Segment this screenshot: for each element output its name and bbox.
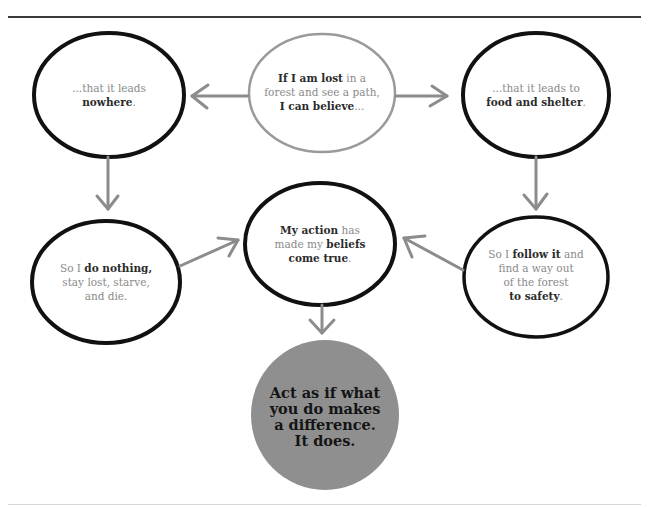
conclusion-text-1: has bbox=[338, 224, 360, 236]
final-text-4: It does. bbox=[255, 433, 395, 449]
right-outcome-text-2: find a way out bbox=[471, 261, 601, 275]
arrow-conclusion-to-final bbox=[310, 305, 334, 333]
arrow-start-to-left bbox=[192, 85, 248, 108]
start-node: If I am lost in a forest and see a path,… bbox=[252, 71, 392, 113]
right-belief-text-2: . bbox=[582, 96, 585, 108]
arrow-left-belief-down bbox=[97, 157, 118, 209]
right-belief-node: ...that it leads to food and shelter. bbox=[466, 81, 606, 109]
final-text-2: you do makes bbox=[255, 401, 395, 417]
left-outcome-node: So I do nothing, stay lost, starve, and … bbox=[41, 261, 171, 303]
left-outcome-text-3: and die. bbox=[41, 289, 171, 303]
left-belief-emphasis: nowhere bbox=[82, 96, 132, 108]
conclusion-node: My action has made my beliefs come true. bbox=[255, 223, 385, 265]
left-belief-node: ...that it leads nowhere. bbox=[49, 81, 169, 109]
right-outcome-emphasis-4: to safety bbox=[509, 290, 559, 302]
conclusion-emphasis-3: come true bbox=[289, 252, 349, 264]
start-emphasis-1: If I am lost bbox=[278, 72, 343, 84]
left-belief-text-2: . bbox=[132, 96, 135, 108]
right-outcome-text-1: So I bbox=[488, 248, 512, 260]
final-text-1: Act as if what bbox=[255, 385, 395, 401]
arrow-start-to-right bbox=[396, 86, 447, 106]
start-emphasis-3: I can believe bbox=[280, 100, 355, 112]
right-outcome-text-4: . bbox=[560, 290, 563, 302]
arrow-right-belief-down bbox=[524, 157, 547, 209]
conclusion-emphasis-1: My action bbox=[280, 224, 338, 236]
right-belief-emphasis: food and shelter bbox=[486, 96, 582, 108]
final-text-3: a difference. bbox=[255, 417, 395, 433]
start-text-1: in a bbox=[343, 72, 366, 84]
right-outcome-text-3: of the forest bbox=[471, 275, 601, 289]
left-belief-text-1: ...that it leads bbox=[49, 81, 169, 95]
start-text-2: forest and see a path, bbox=[252, 85, 392, 99]
right-belief-text-1: ...that it leads to bbox=[466, 81, 606, 95]
final-node: Act as if what you do makes a difference… bbox=[255, 385, 395, 449]
left-outcome-emphasis: do nothing, bbox=[84, 262, 152, 274]
left-outcome-text-1: So I bbox=[60, 262, 84, 274]
start-text-3: ... bbox=[354, 100, 364, 112]
right-outcome-text-1b: and bbox=[561, 248, 584, 260]
left-outcome-text-2: stay lost, starve, bbox=[41, 275, 171, 289]
conclusion-emphasis-2: beliefs bbox=[326, 238, 365, 250]
right-outcome-emphasis-1: follow it bbox=[513, 248, 561, 260]
arrow-right-outcome-to-conclusion bbox=[404, 236, 463, 270]
conclusion-text-2: made my bbox=[275, 238, 327, 250]
conclusion-text-3: . bbox=[348, 252, 351, 264]
arrow-left-outcome-to-conclusion bbox=[180, 238, 238, 266]
right-outcome-node: So I follow it and find a way out of the… bbox=[471, 247, 601, 303]
